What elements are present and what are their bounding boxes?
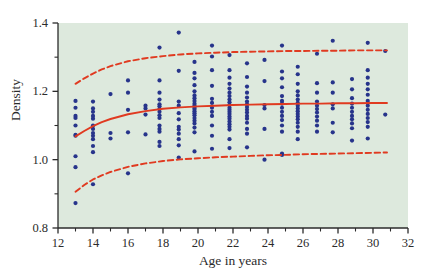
minor-tick-marks (55, 57, 391, 231)
y-tick-label: 0.8 (10, 221, 48, 236)
x-tick-label: 26 (297, 236, 310, 251)
x-tick-label: 24 (262, 236, 275, 251)
x-tick-label: 18 (157, 236, 170, 251)
x-axis-title: Age in years (58, 253, 408, 269)
x-tick-label: 32 (402, 236, 415, 251)
lower-confidence-band (76, 152, 388, 191)
x-tick-label: 30 (367, 236, 380, 251)
x-tick-label: 20 (192, 236, 205, 251)
scatter-plot-figure: 0.81.01.21.4 1214161820222426283032 Dens… (0, 0, 428, 279)
axis-lines (58, 23, 408, 228)
data-points-layer (73, 30, 387, 205)
x-tick-label: 28 (332, 236, 345, 251)
x-tick-label: 12 (52, 236, 65, 251)
y-axis-title: Density (8, 60, 24, 140)
x-tick-label: 22 (227, 236, 240, 251)
y-tick-label: 1.4 (10, 16, 48, 31)
x-tick-label: 16 (122, 236, 135, 251)
x-tick-label: 14 (87, 236, 100, 251)
y-tick-label: 1.0 (10, 152, 48, 167)
